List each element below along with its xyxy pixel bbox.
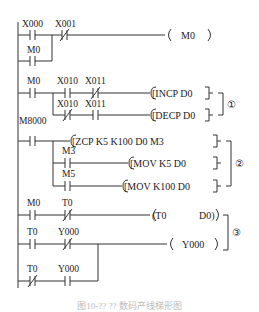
group-marker-3: ③ — [232, 227, 241, 238]
contact-label-x010-nc: X010 — [57, 99, 78, 109]
timer-preset-d0: D0) — [199, 210, 215, 222]
group-marker-1: ① — [227, 99, 236, 110]
figure-caption: 图10-?? ?? 数码产线梯形图 — [0, 299, 259, 312]
instruction-mov-k100: [MOV K100 D0 — [124, 181, 190, 192]
contact-label-y000-no: Y000 — [58, 264, 79, 274]
contact-label-m0-parallel: M0 — [27, 45, 40, 55]
contact-label-m0-timer: M0 — [27, 198, 40, 208]
contact-label-m8000: M8000 — [19, 116, 47, 126]
timer-t0: (T0 — [152, 210, 166, 222]
instruction-incp: [INCP D0 — [152, 88, 192, 99]
instruction-decp: [DECP D0 — [152, 110, 195, 121]
coil-m0: M0 — [181, 30, 195, 41]
contact-label-x011-no: X011 — [85, 99, 106, 109]
contact-label-m5: M5 — [62, 169, 75, 179]
rung-4 — [18, 209, 219, 221]
contact-label-t0-no: T0 — [27, 227, 38, 237]
contact-label-m3: M3 — [62, 146, 75, 156]
contact-label-x010: X010 — [57, 76, 78, 86]
contact-label-x000: X000 — [22, 19, 43, 29]
contact-label-y000-nc: Y000 — [58, 227, 79, 237]
instruction-zcp: [ZCP K5 K100 D0 M3 — [72, 136, 164, 147]
contact-label-t0-nc: T0 — [62, 198, 73, 208]
group-marker-2: ② — [235, 158, 244, 169]
coil-y000: Y000 — [182, 239, 204, 250]
instruction-mov-k5: [MOV K5 D0 — [130, 158, 186, 169]
contact-label-x001: X001 — [55, 19, 76, 29]
contact-label-m0: M0 — [27, 76, 40, 86]
contact-label-t0-nc-2: T0 — [27, 264, 38, 274]
contact-label-x011: X011 — [85, 76, 106, 86]
rung-5 — [18, 215, 228, 287]
